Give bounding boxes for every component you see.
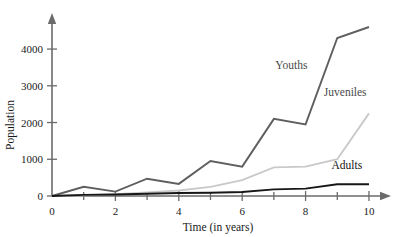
x-ticklabel-6: 6 [239, 205, 245, 217]
series-line-youths [52, 27, 369, 196]
x-ticklabel-8: 8 [303, 205, 309, 217]
y-axis-arrowhead [48, 13, 56, 24]
y-ticklabel-2000: 2000 [21, 117, 44, 129]
x-axis-tick-labels: 0246810 [49, 205, 375, 217]
x-axis-title: Time (in years) [183, 221, 254, 234]
data-series-group [52, 27, 369, 196]
x-ticklabel-0: 0 [49, 205, 55, 217]
series-labels-group: YouthsJuvenilesAdults [275, 59, 367, 171]
y-axis-title: Population [4, 100, 17, 150]
y-ticklabel-0: 0 [38, 190, 44, 202]
x-ticklabel-4: 4 [176, 205, 182, 217]
chart-canvas: 01000200030004000 0246810 YouthsJuvenile… [0, 0, 416, 237]
y-ticklabel-3000: 3000 [21, 80, 44, 92]
x-ticklabel-10: 10 [363, 205, 375, 217]
x-axis-arrowhead [380, 192, 391, 200]
x-ticklabel-2: 2 [113, 205, 119, 217]
series-label-juveniles: Juveniles [324, 86, 367, 98]
y-ticklabel-1000: 1000 [21, 153, 44, 165]
y-ticklabel-4000: 4000 [21, 43, 44, 55]
axes-group [48, 13, 391, 200]
population-line-chart: 01000200030004000 0246810 YouthsJuvenile… [0, 0, 416, 237]
series-label-adults: Adults [331, 159, 362, 171]
series-label-youths: Youths [275, 59, 308, 71]
y-axis-tick-labels: 01000200030004000 [21, 43, 44, 202]
series-line-juveniles [52, 113, 369, 196]
